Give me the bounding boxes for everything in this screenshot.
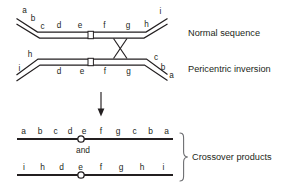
normal-gene-a: a <box>22 6 27 15</box>
product-two-gene-3: e <box>78 162 83 172</box>
normal-sequence-label: Normal sequence <box>188 28 260 38</box>
normal-gene-i: i <box>160 7 162 16</box>
inverted-gene-g: g <box>126 67 131 76</box>
product-one-gene-0: a <box>21 126 26 136</box>
product-one-gene-2: c <box>53 126 57 136</box>
inverted-gene-d: d <box>57 67 62 76</box>
crossover-product-two: i h d e f g h i <box>17 162 173 178</box>
figure-root: a b c d e f g h i h i <box>0 0 295 188</box>
inverted-gene-c: c <box>154 53 158 62</box>
product-two-gene-5: g <box>119 162 124 172</box>
normal-sequence-chromosome: a b c d e f g h i <box>17 6 168 39</box>
normal-gene-b: b <box>31 14 36 23</box>
product-one-gene-5: f <box>100 126 103 136</box>
centromere-inverted <box>88 58 93 65</box>
product-two-gene-6: h <box>140 162 145 172</box>
product-two-gene-4: f <box>100 162 103 172</box>
product-one-gene-6: g <box>116 126 121 136</box>
down-arrow-head <box>98 109 105 117</box>
product-one-gene-4: e <box>82 126 87 136</box>
crossover-products-label: Crossover products <box>192 152 272 162</box>
product-one-gene-7: c <box>132 126 136 136</box>
product-two-gene-7: i <box>163 162 165 172</box>
inverted-gene-h: h <box>28 50 33 59</box>
inverted-gene-f: f <box>104 67 107 76</box>
and-conjunction-label: and <box>76 145 90 155</box>
normal-gene-d: d <box>57 21 62 30</box>
centromere-product-two <box>78 172 84 178</box>
product-two-gene-2: d <box>59 162 64 172</box>
inverted-gene-i: i <box>19 64 21 73</box>
normal-gene-g: g <box>126 21 131 30</box>
normal-gene-h: h <box>144 20 149 29</box>
crossover-x-marker <box>114 39 128 59</box>
pericentric-inversion-label: Pericentric inversion <box>188 64 271 74</box>
normal-gene-c: c <box>40 22 44 31</box>
product-two-gene-0: i <box>23 162 25 172</box>
normal-gene-f: f <box>103 21 106 30</box>
pericentric-inversion-diagram: a b c d e f g h i h i <box>0 0 295 188</box>
centromere-normal <box>88 31 93 38</box>
centromere-product-one <box>78 136 84 142</box>
product-one-gene-3: d <box>68 126 73 136</box>
inverted-gene-b: b <box>161 63 166 72</box>
normal-gene-e: e <box>78 21 83 30</box>
product-one-gene-1: b <box>38 126 43 136</box>
inverted-chromatid-lower-strand <box>17 65 168 81</box>
inverted-gene-a: a <box>169 71 174 80</box>
product-two-gene-1: h <box>40 162 45 172</box>
crossover-products-brace <box>180 133 188 181</box>
product-one-gene-8: b <box>148 126 153 136</box>
crossover-product-one: a b c d e f g c b a <box>17 126 173 142</box>
product-one-gene-9: a <box>164 126 169 136</box>
inverted-gene-e: e <box>80 67 85 76</box>
pericentric-inversion-chromosome: h i d e f g c b a <box>17 50 175 81</box>
down-arrow <box>98 92 105 117</box>
